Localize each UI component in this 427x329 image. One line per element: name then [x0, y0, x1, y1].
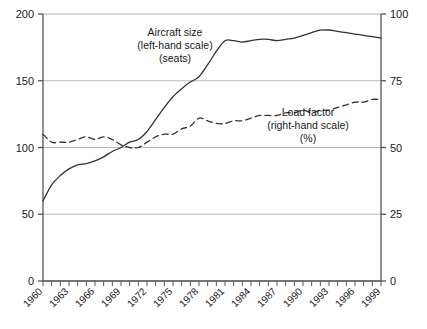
left-axis-tick-label: 50 [22, 208, 34, 220]
right-axis-tick-label: 100 [390, 8, 408, 20]
aircraft-size-annotation-line: Aircraft size [148, 26, 203, 38]
aircraft-size-annotation-line: (seats) [159, 52, 191, 64]
left-axis-tick-label: 100 [16, 142, 34, 154]
right-axis-tick-label: 0 [390, 275, 396, 287]
line-chart: 050100150200 0255075100 1960196319661969… [0, 0, 427, 329]
chart-container: 050100150200 0255075100 1960196319661969… [0, 0, 427, 329]
chart-background [0, 0, 427, 329]
right-axis-tick-label: 25 [390, 208, 402, 220]
aircraft-size-annotation-line: (left-hand scale) [137, 39, 212, 51]
load-factor-annotation-line: (%) [300, 132, 316, 144]
right-axis-tick-label: 50 [390, 142, 402, 154]
left-axis-tick-label: 200 [16, 8, 34, 20]
load-factor-annotation-line: Load factor [282, 106, 335, 118]
left-axis-tick-label: 0 [28, 275, 34, 287]
right-axis-tick-label: 75 [390, 75, 402, 87]
left-axis-tick-label: 150 [16, 75, 34, 87]
load-factor-annotation-line: (right-hand scale) [267, 119, 349, 131]
